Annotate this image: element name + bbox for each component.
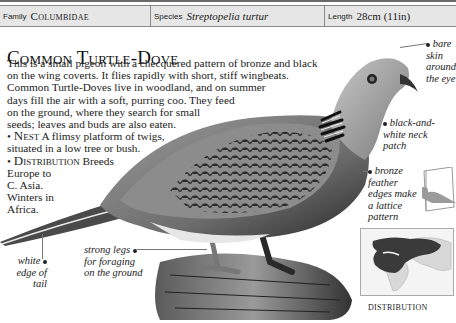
annotation-eye: bare skin around the eye (426, 38, 456, 84)
length-label: Length (328, 12, 352, 21)
annot-line: feather (368, 177, 398, 188)
species-label: Species (154, 12, 182, 21)
description-line: seeds; leaves and buds are also eaten. (7, 118, 318, 130)
annot-line: for foraging (84, 256, 135, 267)
distribution-line: Winters in (7, 191, 318, 203)
length-cell: Length 28cm (11in) (325, 6, 456, 26)
top-rule (0, 0, 456, 2)
annot-line: edge of (16, 267, 47, 278)
annot-line: edges make (368, 188, 417, 199)
annot-line: bronze (375, 165, 403, 176)
distribution-heading: Distribution (14, 153, 80, 168)
species-cell: Species Streptopelia turtur (151, 6, 325, 26)
bullet-icon: • (7, 155, 14, 167)
distribution-line: Africa. (7, 203, 318, 215)
world-map-illustration (361, 229, 453, 295)
legs-leader-line (137, 249, 207, 250)
dot-icon (43, 260, 47, 264)
annot-line: pattern (368, 211, 398, 222)
bullet-icon: • (7, 130, 14, 142)
nest-heading: Nest (14, 128, 39, 143)
dot-icon (368, 170, 372, 174)
description-line: days fill the air with a soft, purring c… (7, 94, 318, 106)
species-value: Streptopelia turtur (186, 10, 268, 22)
distribution-section: • Distribution Breeds (7, 155, 318, 167)
annot-line: black-and- (390, 117, 435, 128)
annot-line: patch (383, 140, 406, 151)
annotation-neck-patch: black-and- white neck patch (383, 117, 435, 152)
annot-line: white neck (383, 129, 428, 140)
dot-icon (133, 249, 137, 253)
description-line: on the wing coverts. It flies rapidly wi… (7, 69, 318, 81)
annot-line: white (18, 255, 41, 266)
annot-line: bare (433, 38, 452, 49)
family-label: Family (3, 12, 27, 21)
annot-line: tail (33, 278, 47, 289)
annotation-tail: white edge of tail (13, 255, 47, 290)
length-value: 28cm (11in) (356, 10, 410, 22)
annot-line: on the ground (84, 267, 143, 278)
nest-text: A flimsy platform of twigs, (41, 130, 164, 142)
description-line: This is a small pigeon with a checquered… (7, 57, 318, 69)
nest-section: • Nest A flimsy platform of twigs, (7, 130, 318, 142)
info-header: Family Columbidae Species Streptopelia t… (0, 5, 456, 27)
annot-line: skin (426, 50, 443, 61)
family-cell: Family Columbidae (0, 6, 151, 26)
distribution-map (360, 228, 454, 296)
annotation-legs: strong legs for foraging on the ground (84, 244, 143, 279)
dot-icon (383, 122, 387, 126)
annot-line: a lattice (368, 200, 402, 211)
family-value: Columbidae (31, 10, 89, 22)
distribution-line: C. Asia. (7, 179, 318, 191)
annot-line: around (426, 61, 456, 72)
dot-icon (426, 43, 430, 47)
annotation-feather: bronze feather edges make a lattice patt… (368, 165, 417, 223)
distribution-text: Breeds (83, 155, 114, 167)
description: This is a small pigeon with a checquered… (7, 57, 318, 216)
description-line: Common Turtle-Doves live in woodland, an… (7, 81, 318, 93)
distribution-map-label: DISTRIBUTION (368, 303, 428, 312)
annot-line: strong legs (84, 244, 130, 255)
book-size-icon (422, 167, 456, 213)
distribution-line: Europe to (7, 167, 318, 179)
annot-line: the eye (426, 73, 455, 84)
description-line: on the ground, where they search for sma… (7, 106, 318, 118)
